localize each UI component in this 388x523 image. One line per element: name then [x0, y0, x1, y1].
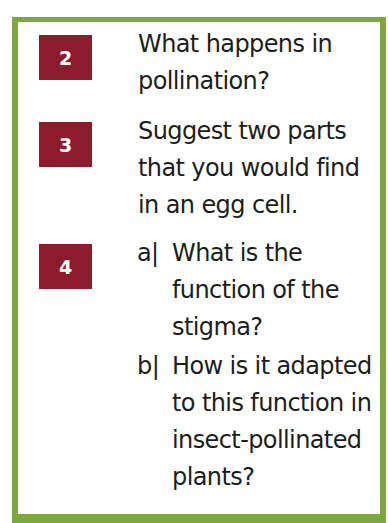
sub-question-text: What is the function of the stigma? — [172, 235, 387, 346]
question-number-badge: 2 — [39, 35, 92, 80]
question-number-badge: 4 — [39, 244, 92, 289]
question-text: What happens in pollination? — [138, 26, 383, 100]
sub-question-label: b| — [137, 348, 159, 385]
sub-question-label: a| — [137, 235, 159, 272]
question-number-badge: 3 — [39, 122, 92, 167]
sub-question-text: How is it adapted to this function in in… — [172, 348, 387, 496]
question-text: Suggest two parts that you would find in… — [138, 113, 383, 224]
